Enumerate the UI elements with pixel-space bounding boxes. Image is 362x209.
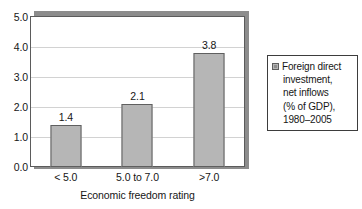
- bar-value-label: 2.1: [130, 91, 144, 102]
- bar-value-label: 1.4: [59, 112, 73, 123]
- y-tick-label: 1.0: [2, 132, 28, 142]
- y-tick-label: 5.0: [2, 12, 28, 22]
- legend-label-line: (% of GDP),: [272, 100, 354, 113]
- legend-first-line: Foreign direct: [272, 61, 341, 72]
- bar-lt-5[interactable]: [50, 125, 81, 167]
- bar-chart: 5.0 4.0 3.0 2.0 1.0 0.0 1.4 2.1 3.8 < 5.…: [0, 0, 362, 209]
- y-axis: 5.0 4.0 3.0 2.0 1.0 0.0: [0, 16, 28, 167]
- legend-label-line: net inflows: [272, 86, 354, 99]
- bars-layer: 1.4 2.1 3.8: [30, 16, 245, 167]
- legend: Foreign direct investment, net inflows (…: [267, 55, 358, 131]
- legend-entry: Foreign direct investment, net inflows (…: [272, 60, 354, 126]
- legend-swatch-icon: [272, 63, 279, 70]
- x-category-label: >7.0: [199, 171, 219, 183]
- y-tick-label: 4.0: [2, 42, 28, 52]
- x-category-label: 5.0 to 7.0: [116, 171, 159, 183]
- bar-5-to-7[interactable]: [122, 104, 153, 167]
- bar-slot: 3.8: [173, 16, 245, 167]
- legend-label-line: investment,: [272, 73, 354, 86]
- bar-slot: 2.1: [102, 16, 174, 167]
- legend-label-line: 1980–2005: [272, 113, 354, 126]
- bar-gt-7[interactable]: [194, 53, 225, 167]
- y-tick-label: 0.0: [2, 162, 28, 172]
- legend-label-line: Foreign direct: [282, 61, 341, 72]
- bar-value-label: 3.8: [202, 40, 216, 51]
- x-category-label: < 5.0: [54, 171, 77, 183]
- bar-slot: 1.4: [30, 16, 102, 167]
- x-axis-title: Economic freedom rating: [30, 189, 245, 201]
- y-tick-label: 3.0: [2, 72, 28, 82]
- y-tick-label: 2.0: [2, 102, 28, 112]
- x-axis: < 5.0 5.0 to 7.0 >7.0: [30, 171, 245, 185]
